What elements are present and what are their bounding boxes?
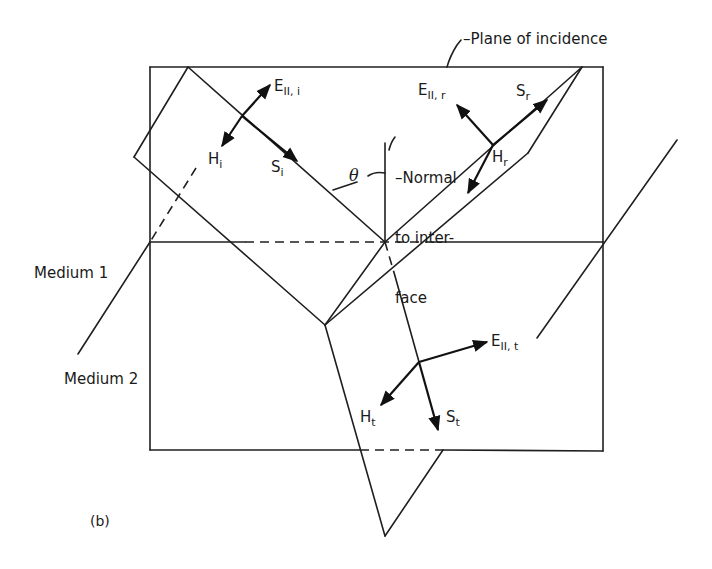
right-plane-edge (537, 140, 677, 338)
normal-label: –Normal to inter- face (395, 128, 457, 328)
transmitted-s-label: St (446, 410, 460, 428)
reflected-h-label: Hr (492, 150, 508, 168)
theta-leader (368, 172, 385, 176)
transmitted-h-label: Ht (360, 410, 376, 428)
normal-line (385, 137, 395, 242)
incident-e-label: EII, i (274, 79, 300, 97)
reflection-refraction-diagram (0, 0, 712, 569)
incident-h-label: Hi (208, 152, 222, 170)
transmitted-e-label: EII, t (491, 334, 518, 352)
theta-label: θ (349, 168, 359, 184)
incident-s-label: Si (271, 160, 284, 178)
reflected-e-label: EII, r (418, 83, 446, 101)
reflected-vectors (457, 100, 547, 193)
medium-2-label: Medium 2 (64, 372, 138, 387)
panel-label: (b) (90, 514, 110, 528)
incident-prism-lower (325, 242, 385, 325)
reflected-s-label: Sr (516, 84, 530, 102)
incident-wavefront-plane (78, 67, 385, 354)
transmitted-vectors (381, 342, 487, 430)
plane-of-incidence-label: –Plane of incidence (463, 32, 607, 47)
plane-of-incidence-leader (447, 40, 461, 67)
medium-1-label: Medium 1 (34, 266, 108, 281)
plane-of-incidence-rectangle (150, 67, 603, 451)
